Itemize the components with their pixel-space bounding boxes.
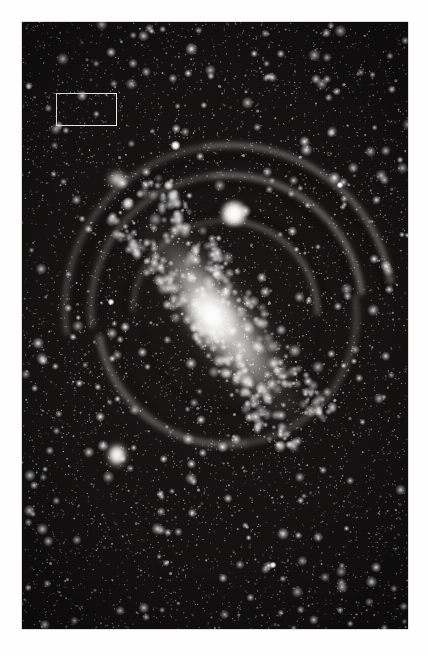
astronomy-plate-image <box>22 22 408 629</box>
region-of-interest-rectangle[interactable] <box>56 93 117 126</box>
page-root <box>0 0 428 656</box>
